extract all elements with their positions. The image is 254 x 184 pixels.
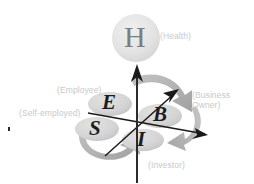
health-letter: H: [124, 22, 146, 52]
quadrant-letter-investor: I: [137, 129, 145, 150]
quadrant-letter-business: B: [153, 104, 167, 125]
quadrant-label-business-line1: (Business: [192, 90, 230, 100]
health-label: (Health): [160, 31, 191, 41]
quadrant-label-investor: (Investor): [148, 160, 185, 170]
quadrant-label-business-line2: Owner): [192, 100, 220, 110]
quadrant-letter-employee: E: [102, 92, 116, 113]
quadrant-label-employee: (Employee): [57, 85, 101, 95]
stray-mark: [8, 127, 10, 131]
quadrant-label-selfemployed: (Self-employed): [19, 108, 81, 118]
cashflow-quadrant-diagram: H (Health) E B S I (Employee) (Business …: [0, 0, 254, 184]
quadrant-letter-selfemployed: S: [89, 118, 101, 139]
